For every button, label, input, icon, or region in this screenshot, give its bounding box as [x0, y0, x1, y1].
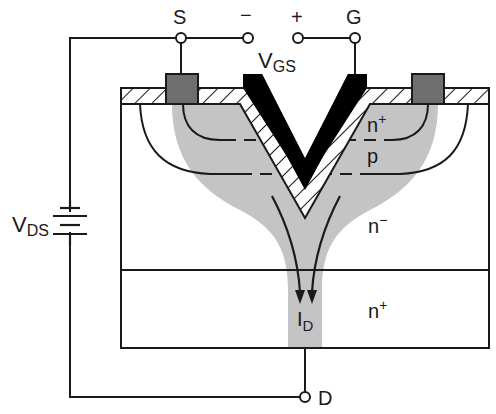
gate-node: [350, 33, 360, 43]
vds-label: VDS: [12, 212, 49, 239]
vgs-label: VGS: [258, 48, 296, 75]
vds-battery-icon: [53, 200, 87, 245]
source-node: [176, 33, 186, 43]
vgs-plus-label: +: [291, 6, 303, 28]
n-minus-drift-label: n−: [368, 212, 387, 237]
vgs-plus-node: [293, 33, 303, 43]
gate-label: G: [346, 6, 362, 28]
drain-node: [300, 392, 310, 402]
vgs-minus-node: [243, 33, 253, 43]
source-contact-right: [412, 74, 444, 104]
vgs-minus-label: −: [240, 4, 252, 26]
source-contact-left: [166, 74, 198, 104]
drain-label: D: [318, 387, 332, 409]
source-label: S: [173, 6, 186, 28]
vmos-diagram: S − + G D VGS VDS n+ p n− n+ ID: [0, 0, 496, 414]
n-plus-substrate-label: n+: [368, 297, 387, 322]
p-body-label: p: [367, 145, 378, 167]
